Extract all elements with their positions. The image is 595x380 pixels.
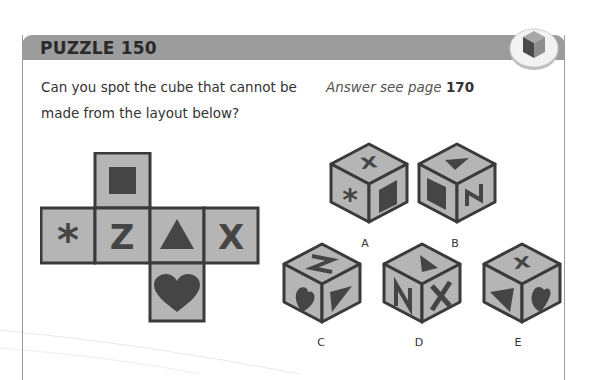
cube-icon — [508, 25, 560, 71]
puzzle-question: Can you spot the cube that cannot be mad… — [41, 74, 301, 126]
x-symbol: X — [218, 217, 244, 257]
cube-c[interactable] — [280, 240, 364, 324]
cube-e[interactable]: X — [480, 240, 564, 324]
asterisk-symbol: * — [57, 216, 79, 265]
square-symbol — [109, 167, 136, 194]
answer-prefix: Answer see page — [326, 79, 442, 95]
svg-text:*: * — [342, 182, 358, 217]
svg-text:X: X — [512, 252, 532, 272]
cube-e-label: E — [508, 336, 528, 349]
cube-d[interactable] — [380, 240, 464, 324]
answer-reference: Answer see page 170 — [326, 74, 474, 100]
svg-text:X: X — [359, 152, 379, 172]
cube-d-label: D — [409, 336, 429, 349]
z-symbol: Z — [110, 217, 135, 257]
puzzle-title: PUZZLE 150 — [40, 38, 157, 58]
cube-c-label: C — [311, 336, 331, 349]
cube-b[interactable] — [415, 140, 499, 224]
cube-a[interactable]: X * — [327, 140, 411, 224]
answer-page: 170 — [446, 79, 474, 95]
cube-net: * Z X — [40, 152, 260, 324]
